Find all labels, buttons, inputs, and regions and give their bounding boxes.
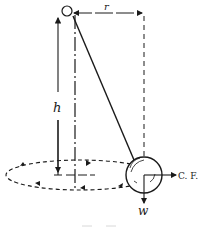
pendulum-string: [73, 16, 134, 160]
pivot: [62, 6, 72, 16]
direction-arrow-icon: [80, 185, 85, 190]
height-label: h: [53, 100, 61, 115]
radius-label: r: [104, 1, 110, 12]
direction-arrow-icon: [86, 160, 91, 166]
direction-arrow-icon: [35, 181, 40, 186]
centrifugal-force-label: C. F.: [178, 171, 198, 181]
conical-pendulum-diagram: r h: [0, 0, 203, 230]
weight-label: w: [138, 204, 149, 218]
